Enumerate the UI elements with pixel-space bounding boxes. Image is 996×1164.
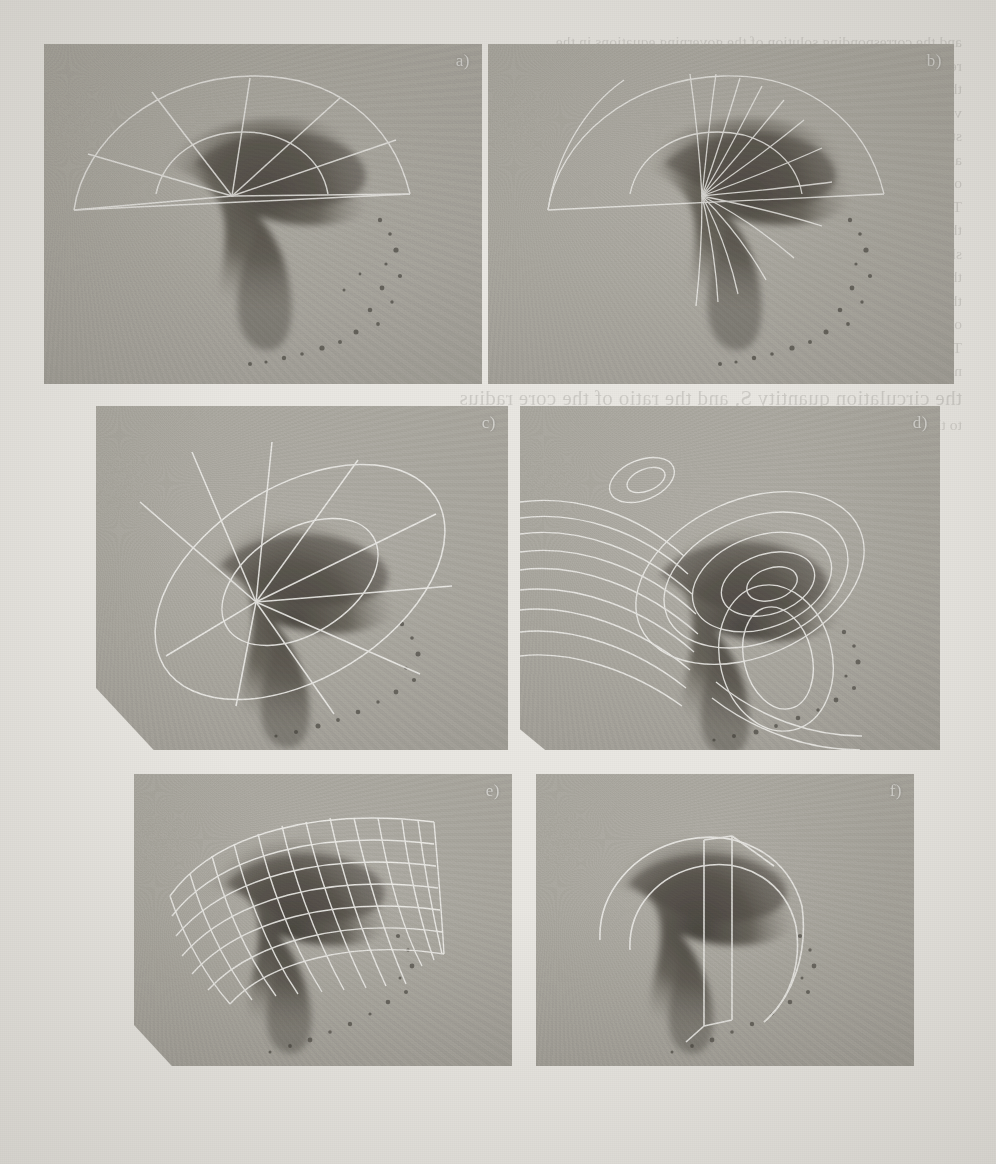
- panel-c-graphics: [96, 406, 508, 750]
- vortex-structure: [634, 118, 861, 354]
- panel-label-b: b): [927, 51, 942, 71]
- figure-grid: a): [44, 44, 954, 1066]
- figure-panel-c: c): [96, 406, 508, 750]
- scanned-page: and the corresponding solution of the go…: [0, 0, 996, 1164]
- figure-panel-f: f): [536, 774, 914, 1066]
- panel-label-c: c): [482, 413, 496, 433]
- figure-panel-a: a): [44, 44, 482, 384]
- vortex-structure: [602, 839, 811, 1058]
- figure-panel-b: b): [488, 44, 954, 384]
- panel-b-graphics: [488, 44, 954, 384]
- panel-label-f: f): [890, 781, 902, 801]
- panel-d-graphics: [520, 406, 940, 750]
- panel-label-d: d): [913, 413, 928, 433]
- panel-label-a: a): [456, 51, 470, 71]
- panel-f-graphics: [536, 774, 914, 1066]
- vortex-structure: [200, 839, 409, 1058]
- panel-e-graphics: [134, 774, 512, 1066]
- vortex-structure: [192, 519, 413, 750]
- figure-panel-e: e): [134, 774, 512, 1066]
- panel-a-graphics: [44, 44, 482, 384]
- figure-panel-d: d): [520, 406, 940, 750]
- panel-label-e: e): [486, 781, 500, 801]
